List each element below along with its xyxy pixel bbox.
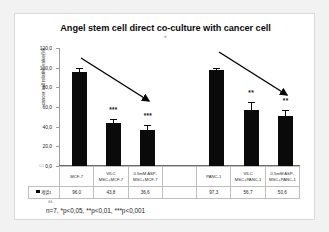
footnote-marker: AA	[48, 200, 52, 204]
screenshot-root: Angel stem cell direct co-culture with c…	[0, 0, 329, 232]
error-bar	[216, 69, 217, 70]
category-cell-mcf7: MCF-7	[60, 167, 94, 187]
data-table: MCF-7 VILCMSC+MCF-7 0.5mM ASP-MSC+MCF-7 …	[28, 166, 300, 199]
value-cell-vilc-panc1: 56,7	[231, 187, 265, 199]
error-bar	[147, 126, 148, 130]
error-bar-cap	[248, 102, 255, 103]
value-cell-asp-mcf7: 36,6	[128, 187, 162, 199]
category-label: MCF-7	[70, 174, 83, 179]
chart-footnote: n=7, *p<0,05, **p<0,01, ***p<0,001	[46, 207, 145, 214]
value-label: 96,0	[72, 190, 81, 195]
value-label: 50,6	[278, 190, 287, 195]
table-row: MCF-7 VILCMSC+MCF-7 0.5mM ASP-MSC+MCF-7 …	[29, 167, 300, 187]
category-label: PANC-1	[206, 174, 221, 179]
y-tick-label-60: 60,0	[42, 105, 52, 110]
bar	[244, 110, 259, 166]
category-cell-vilc-panc1: VILCMSC+PANC-1	[231, 167, 265, 187]
category-label: 0.5mM ASP-MSC+PANC-1	[269, 171, 296, 181]
category-label: VILCMSC+MCF-7	[99, 171, 124, 181]
y-tick-label-100: 100,0	[40, 65, 52, 70]
error-bar	[113, 120, 114, 123]
value-label: 97,3	[209, 190, 218, 195]
legend-label: 계열1	[41, 190, 51, 196]
bar	[140, 130, 155, 166]
error-bar	[251, 103, 252, 110]
value-cell-vilc-mcf7: 43,8	[94, 187, 128, 199]
table-row: 계열1 96,0 43,8 36,6 97,3 56,7 50,6	[29, 187, 300, 199]
value-cell-asp-panc1: 50,6	[265, 187, 299, 199]
error-bar	[79, 69, 80, 72]
error-bar-cap	[110, 119, 117, 120]
significance-marker: **	[283, 97, 289, 104]
category-label: VILCMSC+PANC-1	[235, 171, 262, 181]
value-label: 43,8	[106, 190, 115, 195]
y-axis-label: cancer cell relative value(%)	[41, 27, 46, 127]
legend-entry: 계열1	[29, 187, 60, 199]
y-tick-label-120: 120,0	[40, 46, 52, 51]
plot-area: 120,0 100,0 80,0 60,0 40,0 20,0 0,0 CC	[59, 48, 300, 166]
error-bar-cap	[213, 68, 220, 69]
category-cell-empty	[162, 167, 196, 187]
bar	[72, 72, 87, 166]
category-cell-vilc-mcf7: VILCMSC+MCF-7	[94, 167, 128, 187]
category-label: 0.5mM ASP-MSC+MCF-7	[133, 171, 158, 181]
value-label: 56,7	[244, 190, 253, 195]
value-cell-panc1: 97,3	[197, 187, 231, 199]
bar	[106, 123, 121, 166]
y-tick-label-20: 20,0	[42, 144, 52, 149]
category-cell-asp-mcf7: 0.5mM ASP-MSC+MCF-7	[128, 167, 162, 187]
bar	[278, 116, 293, 166]
significance-marker: ***	[144, 112, 152, 119]
bar	[209, 70, 224, 166]
significance-marker: **	[248, 89, 254, 96]
error-bar-cap	[282, 110, 289, 111]
category-row-spacer	[29, 167, 60, 187]
chart-title-marker: ※	[15, 35, 316, 39]
error-bar-cap	[144, 125, 151, 126]
error-bar	[285, 111, 286, 116]
category-cell-asp-panc1: 0.5mM ASP-MSC+PANC-1	[265, 167, 299, 187]
y-tick-label-40: 40,0	[42, 124, 52, 129]
chart-title: Angel stem cell direct co-culture with c…	[15, 23, 316, 33]
y-tick-label-80: 80,0	[42, 85, 52, 90]
value-label: 36,6	[141, 190, 150, 195]
error-bar-cap	[76, 68, 83, 69]
significance-marker: ***	[109, 106, 117, 113]
value-cell-empty	[162, 187, 196, 199]
value-cell-mcf7: 96,0	[60, 187, 94, 199]
bar-slot-asp-panc1: **	[266, 48, 306, 166]
chart-card: Angel stem cell direct co-culture with c…	[14, 13, 315, 220]
legend-swatch-icon	[36, 190, 39, 193]
category-cell-panc1: PANC-1	[197, 167, 231, 187]
